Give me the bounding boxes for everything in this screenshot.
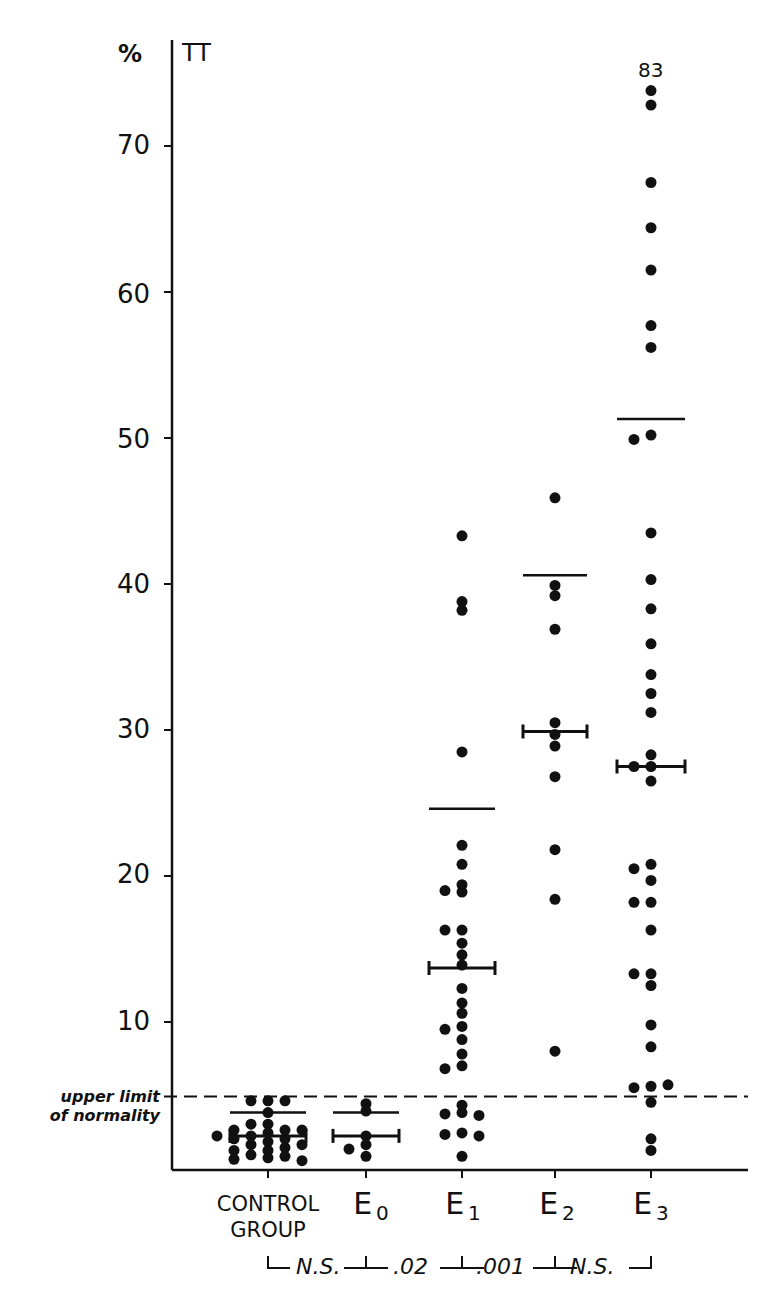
data-point [646, 669, 657, 680]
sig-e0-e1: .02 [393, 1254, 428, 1279]
data-point [457, 840, 468, 851]
x-label-control-line2: GROUP [208, 1217, 328, 1243]
data-point [440, 1063, 451, 1074]
upper-limit-line2: of normality [0, 1106, 160, 1125]
data-point [280, 1151, 291, 1162]
data-point [646, 177, 657, 188]
data-point [646, 875, 657, 886]
data-point [646, 1097, 657, 1108]
data-point [246, 1095, 257, 1106]
x-label-e2: E2 [522, 1186, 592, 1225]
data-point [646, 638, 657, 649]
significance-bracket [344, 1256, 388, 1268]
data-point [646, 776, 657, 787]
x-label-e3-letter: E [633, 1186, 652, 1221]
data-point [550, 771, 561, 782]
data-point [550, 624, 561, 635]
data-point [550, 741, 561, 752]
data-point [646, 574, 657, 585]
data-point [457, 949, 468, 960]
data-point [246, 1149, 257, 1160]
sig-e2-e3: N.S. [570, 1254, 614, 1279]
data-point [646, 320, 657, 331]
data-point [629, 897, 640, 908]
data-point [440, 1108, 451, 1119]
x-label-e3: E3 [616, 1186, 686, 1225]
data-point [646, 222, 657, 233]
x-label-e2-letter: E [539, 1186, 558, 1221]
data-point [457, 1008, 468, 1019]
data-point [457, 530, 468, 541]
x-label-e1: E1 [428, 1186, 498, 1225]
data-point [457, 1021, 468, 1032]
x-label-e3-sub: 3 [656, 1201, 669, 1225]
data-point [457, 887, 468, 898]
y-tick-60: 60 [90, 279, 150, 309]
data-point [246, 1139, 257, 1150]
data-point [263, 1152, 274, 1163]
y-unit-label: % [118, 40, 142, 68]
data-point [629, 863, 640, 874]
data-point [457, 938, 468, 949]
y-tick-70: 70 [90, 130, 150, 160]
data-point [457, 998, 468, 1009]
significance-bracket [268, 1256, 290, 1268]
data-point [646, 749, 657, 760]
off-scale-annotation: 83 [638, 58, 663, 82]
data-point [457, 1107, 468, 1118]
data-point [440, 1024, 451, 1035]
data-point [457, 1127, 468, 1138]
data-point [457, 1060, 468, 1071]
sig-control-e0: N.S. [296, 1254, 340, 1279]
data-point [646, 925, 657, 936]
data-point [646, 603, 657, 614]
data-point [646, 688, 657, 699]
data-point [550, 894, 561, 905]
data-point [457, 1034, 468, 1045]
sig-e1-e2: .001 [476, 1254, 525, 1279]
data-point [646, 1133, 657, 1144]
data-point [361, 1106, 372, 1117]
data-point [457, 1151, 468, 1162]
data-point [297, 1155, 308, 1166]
data-point [646, 1145, 657, 1156]
x-label-e1-letter: E [445, 1186, 464, 1221]
data-point [646, 1019, 657, 1030]
scatter-chart: % TT 83 70 60 50 40 30 20 10 upper limit… [0, 0, 777, 1304]
data-point [629, 1082, 640, 1093]
y-tick-50: 50 [90, 424, 150, 454]
data-point [550, 492, 561, 503]
data-point [457, 983, 468, 994]
upper-limit-line1: upper limit [0, 1087, 160, 1106]
data-point [646, 342, 657, 353]
data-point [646, 897, 657, 908]
data-point [229, 1154, 240, 1165]
data-point [646, 980, 657, 991]
y-tick-30: 30 [90, 714, 150, 744]
data-point [457, 859, 468, 870]
data-point [440, 885, 451, 896]
data-point [629, 968, 640, 979]
data-point [646, 100, 657, 111]
data-point [440, 1129, 451, 1140]
x-label-control-group: CONTROL GROUP [208, 1191, 328, 1243]
data-point [646, 527, 657, 538]
data-point [550, 1046, 561, 1057]
x-label-e0: E0 [336, 1186, 406, 1225]
data-point [246, 1119, 257, 1130]
data-point [646, 85, 657, 96]
data-point [646, 1081, 657, 1092]
data-point [457, 925, 468, 936]
x-label-e2-sub: 2 [562, 1201, 575, 1225]
data-point [474, 1130, 485, 1141]
data-point [646, 430, 657, 441]
significance-bracket [629, 1256, 651, 1268]
data-point [361, 1151, 372, 1162]
y-tick-10: 10 [90, 1006, 150, 1036]
data-point [550, 580, 561, 591]
data-point [646, 265, 657, 276]
data-point [457, 605, 468, 616]
data-point [663, 1079, 674, 1090]
data-point [646, 1041, 657, 1052]
y-tick-20: 20 [90, 859, 150, 889]
